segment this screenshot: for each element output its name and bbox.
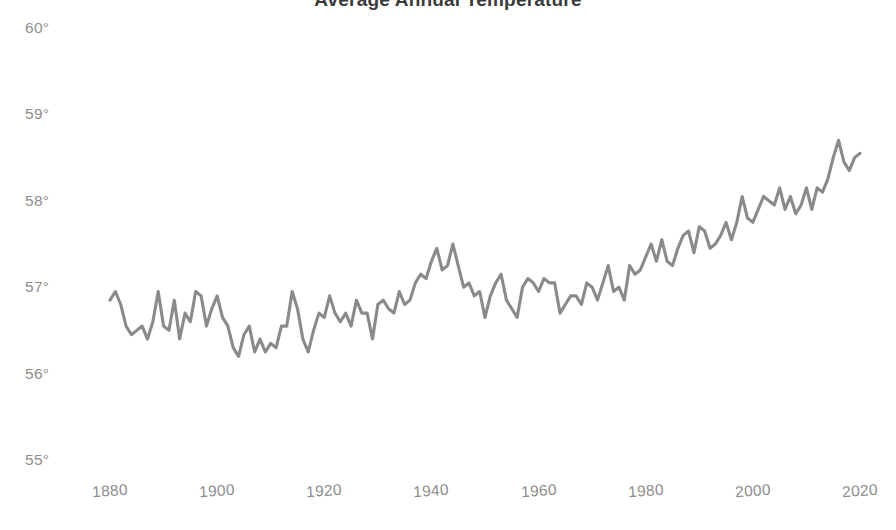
x-axis-tick-1880: 1880 [85,480,134,501]
x-axis-tick-1940: 1940 [407,480,456,501]
chart-container: Average Annual Temperature 55°56°57°58°5… [0,0,896,530]
line-chart-plot-area [0,0,896,530]
y-axis-tick-55: 55° [25,451,49,469]
x-axis-tick-1960: 1960 [514,480,563,501]
temperature-series-line [110,140,860,356]
x-axis-tick-1980: 1980 [621,480,670,501]
x-axis-tick-2000: 2000 [728,480,777,501]
y-axis-tick-60: 60° [25,19,49,37]
x-axis-tick-1920: 1920 [300,480,349,501]
x-axis-tick-1900: 1900 [193,480,242,501]
y-axis-tick-56: 56° [25,365,49,383]
y-axis-tick-58: 58° [25,192,49,210]
y-axis-tick-57: 57° [25,278,49,296]
x-axis-tick-2020: 2020 [835,480,884,501]
y-axis-tick-59: 59° [25,105,49,123]
